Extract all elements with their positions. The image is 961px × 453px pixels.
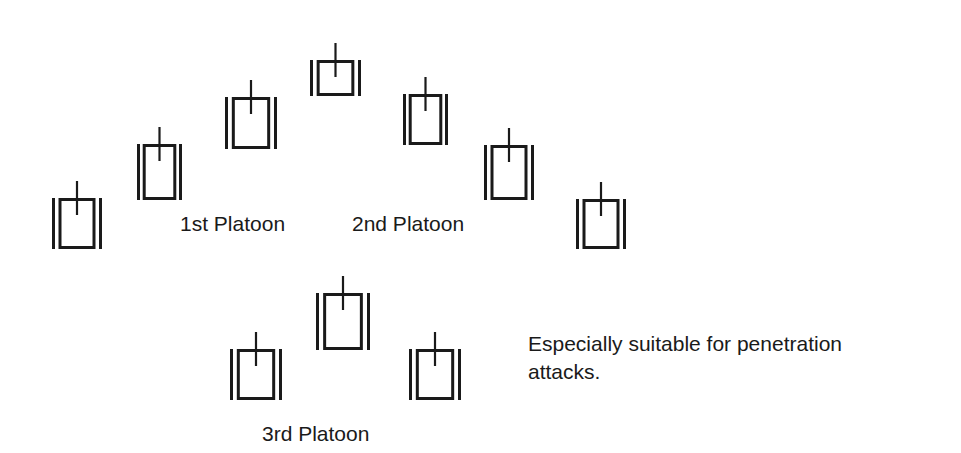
tank-icon: [403, 77, 448, 145]
label-1st-platoon: 1st Platoon: [180, 213, 285, 234]
formation-note: Especially suitable for penetration atta…: [528, 330, 948, 386]
label-3rd-platoon: 3rd Platoon: [262, 423, 369, 444]
tank-icon: [225, 80, 277, 149]
tank-icon: [137, 127, 182, 200]
note-line-1: Especially suitable for penetration: [528, 330, 948, 358]
tank-icon: [316, 276, 370, 350]
note-line-2: attacks.: [528, 358, 948, 386]
tank-icon: [310, 43, 361, 96]
tank-icon: [409, 332, 461, 400]
tank-icon: [484, 128, 534, 200]
label-2nd-platoon: 2nd Platoon: [352, 213, 464, 234]
tank-icon: [576, 182, 626, 249]
tank-icon: [52, 181, 102, 249]
tank-icon: [230, 332, 282, 400]
